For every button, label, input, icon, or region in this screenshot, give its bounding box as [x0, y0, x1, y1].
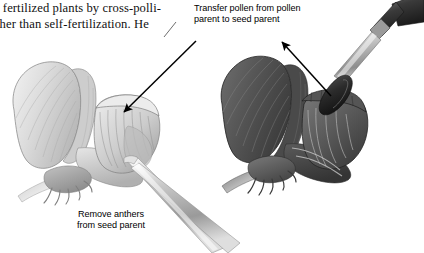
right-flower-group — [221, 0, 424, 195]
body-text-column: l fertilized plants by cross-polli- ther… — [0, 1, 226, 32]
label-remove-line-2: from seed parent — [46, 220, 176, 231]
paintbrush-shaft-highlight — [337, 33, 377, 79]
label-remove-line-1: Remove anthers — [46, 209, 176, 220]
body-text-line-2: ther than self-fertilization. He — [0, 17, 226, 33]
body-text-line-1: l fertilized plants by cross-polli- — [0, 1, 226, 17]
tweezers-highlight — [129, 159, 218, 251]
label-transfer-line-2: parent to seed parent — [194, 14, 329, 25]
tweezers — [124, 156, 240, 253]
label-transfer-line-1: Transfer pollen from pollen — [194, 3, 329, 14]
paintbrush — [319, 0, 424, 115]
arrow-to-keel-left — [124, 41, 196, 112]
label-remove-anthers: Remove anthers from seed parent — [46, 209, 176, 232]
label-transfer-pollen: Transfer pollen from pollen parent to se… — [194, 3, 329, 26]
cross-pollination-figure: l fertilized plants by cross-polli- ther… — [0, 0, 424, 253]
